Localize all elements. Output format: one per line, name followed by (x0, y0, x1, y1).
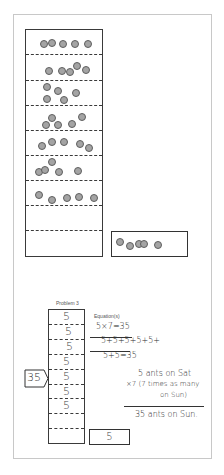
dot (75, 193, 83, 201)
top-tape-diagram (25, 29, 103, 257)
dot (43, 95, 51, 103)
work-line: on Sun) (160, 391, 187, 399)
dot (72, 89, 80, 97)
equation-line: 5×7=35 (96, 322, 130, 331)
total-value: 35 (27, 371, 41, 384)
tape-cell-value: 5 (49, 399, 84, 412)
dot (38, 142, 46, 150)
dot (154, 241, 162, 249)
tape-cell-value: 5 (49, 310, 84, 323)
unit-dot-box (111, 231, 188, 257)
dot (60, 96, 68, 104)
dot (59, 40, 67, 48)
equation-line: 5+5=35 (103, 351, 137, 360)
dot (66, 68, 74, 76)
dot (48, 39, 56, 47)
dot (41, 166, 49, 174)
dot (84, 40, 92, 48)
row-divider (26, 130, 102, 131)
dot (48, 158, 56, 166)
answer-box: 5 (89, 429, 130, 445)
dot (55, 168, 63, 176)
dot (71, 40, 79, 48)
dot (45, 67, 53, 75)
row-divider (26, 105, 102, 106)
tape-cell-value: 5 (49, 385, 84, 398)
dot (82, 66, 90, 74)
dot (63, 194, 71, 202)
dot (78, 113, 86, 121)
dot (140, 240, 148, 248)
dot (43, 83, 51, 91)
dot (35, 191, 43, 199)
dot (40, 40, 48, 48)
sum-line (124, 406, 204, 407)
tape-cell-value: 5 (49, 325, 84, 338)
row-divider (49, 413, 84, 414)
dot (126, 242, 134, 250)
work-line: ×7 (7 times as many (126, 380, 200, 388)
row-divider (26, 155, 102, 156)
problem-label: Problem 3 (56, 300, 79, 306)
dot (60, 138, 68, 146)
row-divider (26, 80, 102, 81)
dot (68, 120, 76, 128)
problem-tape-diagram: 5 5 5 5 5 5 5 (48, 309, 85, 444)
dot (54, 121, 62, 129)
row-divider (26, 54, 102, 55)
dot (42, 121, 50, 129)
dot (58, 67, 66, 75)
dot (74, 167, 82, 175)
dot (54, 87, 62, 95)
dot (90, 194, 98, 202)
dot (76, 140, 84, 148)
dot (85, 144, 93, 152)
tape-cell-value: 5 (49, 340, 84, 353)
equation-line: 5+5+5+5+5+ (101, 336, 160, 345)
row-divider (26, 205, 102, 206)
work-line: 35 ants on Sun. (135, 410, 198, 419)
tape-cell-value: 5 (49, 370, 84, 383)
tape-cell-value: 5 (49, 355, 84, 368)
dot (48, 196, 56, 204)
answer-value: 5 (90, 431, 129, 442)
row-divider (26, 180, 102, 181)
equations-label: Equation(s) (94, 313, 120, 319)
dot (73, 62, 81, 70)
dot (48, 138, 56, 146)
row-divider (49, 428, 84, 429)
work-line: 5 ants on Sat (138, 369, 191, 378)
row-divider (26, 230, 102, 231)
dot (116, 238, 124, 246)
